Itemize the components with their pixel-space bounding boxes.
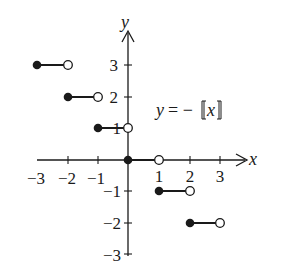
closed-dot-icon — [33, 61, 42, 70]
x-tick-label: 3 — [216, 167, 225, 186]
open-dot-icon — [64, 61, 73, 70]
svg-text:= −: = − — [168, 100, 193, 120]
x-axis-label: x — [248, 149, 257, 169]
equation-label: y = − x — [154, 100, 221, 120]
y-tick-label: −2 — [103, 214, 121, 233]
x-tick-label: 1 — [155, 167, 164, 186]
open-dot-icon — [216, 219, 225, 228]
open-dot-icon — [94, 93, 103, 102]
closed-dot-icon — [124, 156, 133, 165]
y-tick-label: −1 — [103, 182, 121, 201]
closed-endpoints — [33, 61, 195, 228]
step-segments — [37, 65, 216, 223]
svg-text:x: x — [206, 100, 215, 120]
open-endpoints — [64, 61, 225, 228]
y-tick-label: 3 — [110, 56, 119, 75]
y-axis-label: y — [119, 12, 129, 32]
open-dot-icon — [124, 124, 133, 133]
x-tick-label: −2 — [58, 169, 76, 188]
closed-dot-icon — [94, 124, 103, 133]
floor-bracket-left-icon — [202, 101, 206, 119]
svg-text:y: y — [154, 100, 164, 120]
closed-dot-icon — [64, 93, 73, 102]
y-tick-label: 2 — [110, 88, 119, 107]
open-dot-icon — [155, 156, 164, 165]
step-function-graph: −3 −2 −1 1 2 3 3 2 1 −1 −2 −3 x y y = − … — [0, 0, 282, 274]
closed-dot-icon — [155, 187, 164, 196]
floor-bracket-right-icon — [217, 101, 221, 119]
y-tick-label: −3 — [103, 246, 121, 265]
open-dot-icon — [186, 187, 195, 196]
x-tick-label: −3 — [27, 169, 45, 188]
closed-dot-icon — [186, 219, 195, 228]
x-tick-label: 2 — [186, 167, 195, 186]
